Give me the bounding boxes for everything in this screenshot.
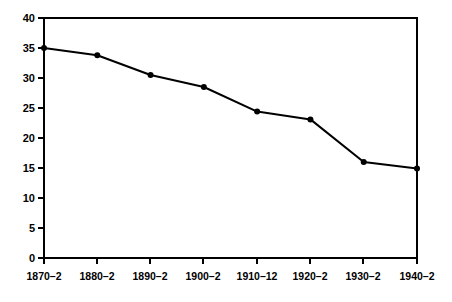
data-point-1940–2	[414, 166, 420, 172]
data-line-series-1	[44, 48, 417, 169]
x-tick-label-1940: 1940–2	[399, 270, 434, 282]
y-tick-label-0: 0	[29, 252, 35, 264]
y-tick-label-40: 40	[23, 12, 35, 24]
data-point-1890–2	[148, 72, 154, 78]
data-point-1910–12	[254, 109, 260, 115]
x-tick-label-1900: 1900–2	[185, 270, 220, 282]
data-point-1900–2	[201, 84, 207, 90]
data-point-1920–2	[307, 116, 313, 122]
y-tick-label-30: 30	[23, 72, 35, 84]
y-tick-label-5: 5	[29, 222, 35, 234]
x-axis-tick-labels: 1870–2 1880–2 1890–2 1900–2 1910–12 1920…	[26, 270, 434, 282]
chart-container: 40 35 30 25 20 15 10 5 0 1870–2 1880–2 1…	[0, 0, 452, 302]
x-tick-label-1910: 1910–12	[237, 270, 278, 282]
x-tick-label-1870: 1870–2	[26, 270, 61, 282]
data-point-1870–2	[41, 45, 47, 51]
line-chart: 40 35 30 25 20 15 10 5 0 1870–2 1880–2 1…	[0, 0, 452, 302]
x-tick-label-1930: 1930–2	[345, 270, 380, 282]
data-point-markers	[41, 45, 420, 172]
y-tick-label-35: 35	[23, 42, 35, 54]
x-tick-label-1880: 1880–2	[79, 270, 114, 282]
y-tick-label-20: 20	[23, 132, 35, 144]
data-point-1930–2	[361, 159, 367, 165]
x-tick-label-1920: 1920–2	[292, 270, 327, 282]
y-tick-label-25: 25	[23, 102, 35, 114]
y-tick-label-10: 10	[23, 192, 35, 204]
x-tick-label-1890: 1890–2	[132, 270, 167, 282]
y-tick-label-15: 15	[23, 162, 35, 174]
y-axis-tick-labels: 40 35 30 25 20 15 10 5 0	[23, 12, 35, 264]
data-point-1880–2	[94, 52, 100, 58]
